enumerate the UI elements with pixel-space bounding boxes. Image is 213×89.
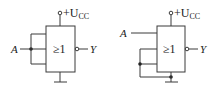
right-gate-symbol: ≥1 [163,42,176,56]
right-vcc-terminal-icon [169,11,173,15]
left-input-label: A [10,43,18,55]
left-output-label: Y [90,43,98,55]
right-output-inverter-bubble-icon [185,47,189,51]
right-vcc-label: +UCC [174,6,200,21]
left-vcc-terminal-icon [58,11,62,15]
left-circuit: ≥1 +UCC Y A [10,6,98,82]
left-gate-symbol: ≥1 [53,42,66,56]
left-vcc-label: +UCC [63,6,89,21]
right-junction-dot-1-icon [138,62,142,66]
right-output-label: Y [200,43,208,55]
circuit-diagram: ≥1 +UCC Y A ≥1 +UCC Y [0,0,213,89]
left-output-inverter-bubble-icon [75,47,79,51]
right-input-label: A [119,27,127,39]
right-circuit: ≥1 +UCC Y A [119,6,208,82]
